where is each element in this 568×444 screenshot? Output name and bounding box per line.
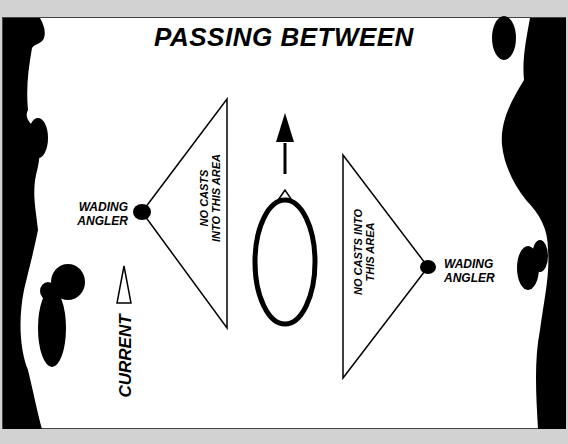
right-angler-label-line2: ANGLER — [444, 271, 514, 285]
left-bank-knob — [28, 118, 48, 158]
right-angler-dot — [420, 260, 436, 274]
right-no-cast-text: NO CASTS INTO THIS AREA — [352, 192, 376, 312]
left-no-cast-line1: NO CASTS — [198, 138, 210, 258]
left-rock-long — [38, 289, 66, 367]
left-angler-label-line2: ANGLER — [62, 214, 128, 228]
current-wedge-icon — [117, 266, 131, 303]
right-no-cast-line2: THIS AREA — [364, 192, 376, 312]
right-rock-b — [532, 240, 548, 272]
canoe-outline-icon — [255, 190, 315, 324]
right-angler-label: WADING ANGLER — [444, 257, 514, 285]
left-angler-label: WADING ANGLER — [62, 200, 128, 228]
diagram-title: PASSING BETWEEN — [0, 22, 568, 53]
right-angler-label-line1: WADING — [444, 257, 514, 271]
left-angler-dot — [133, 204, 151, 220]
up-arrow-icon — [276, 113, 294, 174]
left-angler-label-line1: WADING — [62, 200, 128, 214]
left-no-cast-line2: INTO THIS AREA — [210, 138, 222, 258]
current-label: CURRENT — [116, 306, 136, 406]
right-no-cast-line1: NO CASTS INTO — [352, 192, 364, 312]
right-bank — [502, 18, 566, 429]
left-no-cast-text: NO CASTS INTO THIS AREA — [198, 138, 222, 258]
left-bank — [3, 18, 45, 429]
